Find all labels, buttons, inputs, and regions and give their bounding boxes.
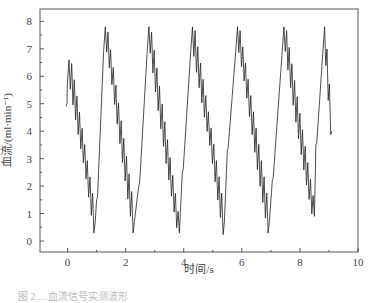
x-tick-label: 2	[123, 256, 129, 268]
x-axis-ticks: 0246810	[65, 248, 364, 268]
y-axis-ticks: 012345678	[27, 15, 45, 247]
y-tick-label: 6	[27, 70, 33, 82]
figure-caption: 图 2 …血流信号实测波形	[18, 288, 128, 303]
blood-flow-signal-line	[66, 27, 332, 235]
plot-frame	[40, 9, 358, 252]
x-axis-label: 时间/s	[184, 263, 213, 275]
y-tick-label: 1	[27, 208, 33, 220]
y-tick-label: 2	[27, 180, 33, 192]
y-tick-label: 5	[27, 98, 33, 110]
y-tick-label: 8	[27, 15, 33, 27]
x-tick-label: 8	[297, 256, 303, 268]
y-tick-label: 0	[27, 235, 33, 247]
y-axis-label: 血流/(ml·min⁻¹)	[0, 93, 14, 167]
y-tick-label: 3	[27, 153, 33, 165]
y-tick-label: 4	[27, 125, 33, 137]
x-tick-label: 10	[353, 256, 365, 268]
x-tick-label: 0	[65, 256, 71, 268]
x-tick-label: 6	[239, 256, 245, 268]
y-tick-label: 7	[27, 43, 33, 55]
